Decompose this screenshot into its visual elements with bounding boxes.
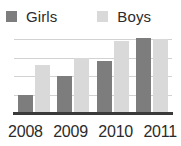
- bar-boys-2010: [114, 41, 129, 113]
- x-axis-line: [13, 112, 173, 115]
- bar-girls-2009: [57, 76, 72, 113]
- legend-entry-boys: Boys: [97, 9, 151, 24]
- chart-legend: Girls Boys: [0, 4, 181, 28]
- bar-girls-2008: [18, 95, 33, 113]
- x-tick-label: 2011: [143, 123, 177, 141]
- bar-girls-2011: [136, 38, 151, 113]
- bars-layer: [14, 32, 172, 113]
- bar-group: [133, 32, 173, 113]
- x-tick-label: 2008: [8, 123, 43, 141]
- bar-group: [14, 32, 54, 113]
- x-axis-tick-labels: 2008200920102011: [8, 121, 177, 143]
- bar-group: [54, 32, 94, 113]
- legend-label-girls: Girls: [26, 9, 57, 24]
- legend-entry-girls: Girls: [6, 9, 57, 24]
- legend-label-boys: Boys: [117, 9, 151, 24]
- bar-boys-2008: [35, 65, 50, 113]
- plot-area: [14, 32, 172, 113]
- bar-boys-2011: [153, 39, 168, 113]
- legend-swatch-boys-icon: [97, 11, 108, 22]
- legend-swatch-girls-icon: [6, 11, 17, 22]
- x-tick-label: 2010: [98, 123, 133, 141]
- bar-girls-2010: [97, 61, 112, 113]
- bar-group: [93, 32, 133, 113]
- bar-boys-2009: [74, 58, 89, 113]
- x-tick-label: 2009: [53, 123, 88, 141]
- bar-chart-figure: Girls Boys 2008200920102011: [0, 0, 181, 146]
